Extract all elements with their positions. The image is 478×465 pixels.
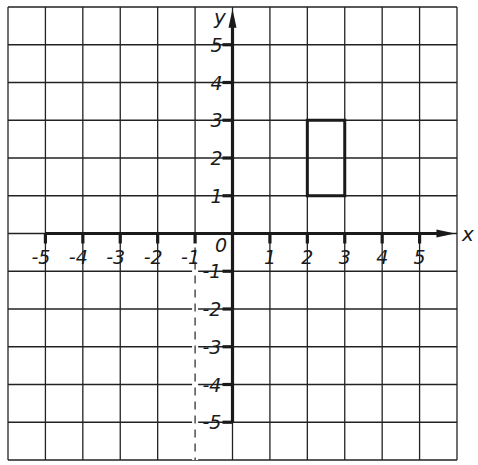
y-tick-label: -3 [203,336,222,358]
x-axis-label: x [461,222,474,246]
coordinate-grid: -5-4-3-2-11234554321-1-2-3-4-5 x y 0 [0,0,478,465]
x-tick-label: -3 [106,246,125,268]
y-tick-label: -2 [203,298,222,320]
x-tick-label: 3 [339,246,351,268]
axes [45,9,455,422]
x-tick-label: 5 [414,246,426,268]
y-tick-label: -4 [203,374,222,396]
origin-label: 0 [215,234,227,256]
x-tick-label: -4 [69,246,88,268]
x-tick-label: 4 [376,246,388,268]
dashed-line [192,236,198,461]
y-tick-label: 2 [211,147,223,169]
x-tick-label: -1 [181,246,200,268]
x-tick-label: 1 [264,246,276,268]
y-tick-label: -5 [203,411,222,433]
y-tick-label: 3 [211,109,223,131]
y-tick-label: 1 [211,185,223,207]
x-tick-label: -2 [144,246,163,268]
x-tick-label: 2 [301,246,313,268]
y-tick-label: -1 [203,260,222,282]
x-tick-label: -5 [31,246,50,268]
y-tick-label: 5 [211,34,223,56]
y-axis-arrow-icon [229,9,237,28]
x-axis-arrow-icon [436,230,455,238]
y-tick-label: 4 [211,72,223,94]
y-axis-label: y [213,5,227,29]
